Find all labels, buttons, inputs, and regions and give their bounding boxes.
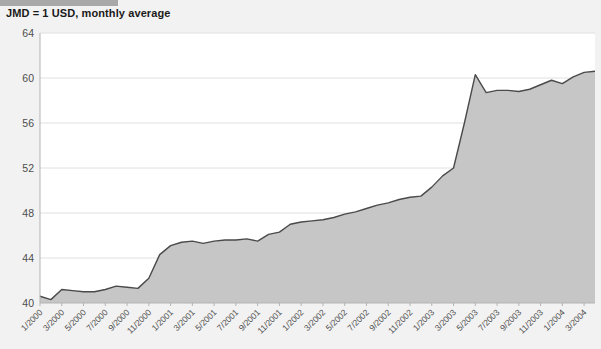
x-axis-tick-label: 3/2001 — [171, 307, 197, 333]
y-axis-tick-label: 40 — [22, 297, 34, 309]
x-axis-tick-label: 11/2001 — [255, 307, 284, 336]
x-axis-tick-label: 5/2003 — [454, 307, 480, 333]
x-axis-tick-label: 11/2003 — [517, 307, 546, 336]
y-axis-tick-label: 64 — [22, 27, 34, 39]
x-axis-tick-label: 11/2002 — [386, 307, 415, 336]
y-axis-tick-label: 52 — [22, 162, 34, 174]
x-axis-tick-label: 1/2000 — [19, 307, 45, 333]
x-axis-tick-label: 7/2001 — [215, 307, 241, 333]
x-axis-tick-label: 7/2003 — [476, 307, 502, 333]
x-axis-tick-label: 5/2000 — [62, 307, 88, 333]
x-axis-tick-label: 7/2000 — [84, 307, 110, 333]
area-chart: 404448525660641/20003/20005/20007/20009/… — [0, 0, 601, 349]
x-axis-tick-label: 1/2003 — [411, 307, 437, 333]
y-axis-tick-label: 44 — [22, 252, 34, 264]
x-axis-tick-label: 7/2002 — [345, 307, 371, 333]
y-axis-tick-label: 56 — [22, 117, 34, 129]
x-axis-tick-label: 3/2002 — [302, 307, 328, 333]
x-axis-tick-label: 3/2003 — [432, 307, 458, 333]
x-axis-tick-label: 5/2001 — [193, 307, 219, 333]
y-axis-tick-label: 60 — [22, 72, 34, 84]
x-axis-tick-label: 3/2000 — [41, 307, 67, 333]
chart-plot-area: 404448525660641/20003/20005/20007/20009/… — [0, 0, 601, 349]
x-axis-tick-label: 1/2001 — [150, 307, 176, 333]
x-axis-tick-label: 1/2004 — [541, 307, 567, 333]
x-axis-tick-label: 5/2002 — [324, 307, 350, 333]
x-axis-tick-label: 11/2000 — [125, 307, 154, 336]
x-axis-tick-label: 1/2002 — [280, 307, 306, 333]
y-axis-tick-label: 48 — [22, 207, 34, 219]
x-axis-tick-label: 3/2004 — [563, 307, 589, 333]
